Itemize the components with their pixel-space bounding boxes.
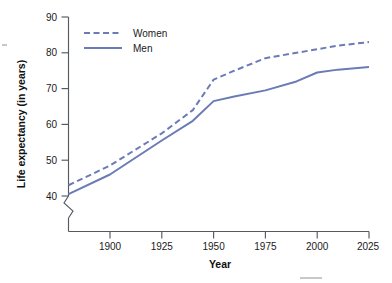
series-line-men: [69, 67, 370, 194]
y-axis-break-icon: [64, 196, 73, 218]
legend-label-women: Women: [133, 28, 167, 39]
y-tick-label-90: 90: [46, 12, 58, 23]
life-expectancy-chart: 90 80 70 60 50 40 1900 1925 1950 1975 20…: [0, 0, 392, 283]
y-tick-label-40: 40: [46, 191, 58, 202]
y-tick-label-80: 80: [46, 47, 58, 58]
x-axis-title: Year: [209, 258, 231, 270]
y-tick-label-50: 50: [46, 155, 58, 166]
scan-speck-bottom: [300, 277, 322, 279]
chart-canvas: 90 80 70 60 50 40 1900 1925 1950 1975 20…: [0, 0, 392, 283]
x-tick-label-1900: 1900: [99, 241, 122, 252]
series-group: [69, 42, 370, 194]
x-ticks-group: 1900 1925 1950 1975 2000 2025: [99, 232, 380, 253]
x-tick-label-2000: 2000: [306, 241, 329, 252]
x-tick-label-1925: 1925: [151, 241, 174, 252]
x-tick-label-2025: 2025: [357, 241, 380, 252]
y-axis-title: Life expectancy (in years): [15, 60, 27, 188]
y-tick-label-60: 60: [46, 119, 58, 130]
x-tick-label-1950: 1950: [202, 241, 225, 252]
legend-label-men: Men: [133, 43, 152, 54]
series-line-women: [69, 42, 370, 185]
x-tick-label-1975: 1975: [254, 241, 277, 252]
y-tick-label-70: 70: [46, 83, 58, 94]
y-ticks-group: 90 80 70 60 50 40: [46, 12, 69, 202]
scan-speck-left: [2, 44, 7, 46]
chart-legend: Women Men: [84, 28, 167, 54]
